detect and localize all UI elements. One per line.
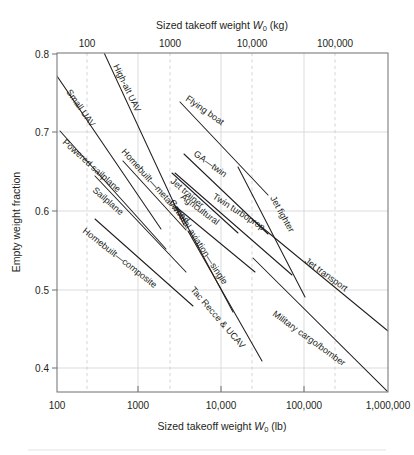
y-tick-label-0-4: 0.4 xyxy=(35,363,49,374)
x-tick-label-1000000: 1,000,000 xyxy=(366,400,411,411)
top-tick-label-10000: 10,000 xyxy=(237,38,268,49)
y-axis-title: Empty weight fraction xyxy=(10,172,22,273)
y-tick-label-0-5: 0.5 xyxy=(35,285,49,296)
empty-weight-fraction-chart: Sized takeoff weight W0 (kg) 100 1000 10… xyxy=(0,0,414,455)
y-tick-label-0-7: 0.7 xyxy=(35,127,49,138)
chart-svg: Sized takeoff weight W0 (kg) 100 1000 10… xyxy=(0,0,414,455)
x-tick-label-100000: 100,000 xyxy=(286,400,323,411)
top-tick-label-1000: 1000 xyxy=(159,38,182,49)
top-axis-title: Sized takeoff weight W0 (kg) xyxy=(156,19,288,33)
y-tick-label-0-8: 0.8 xyxy=(35,49,49,60)
y-tick-label-0-6: 0.6 xyxy=(35,206,49,217)
x-tick-label-100: 100 xyxy=(49,400,66,411)
x-tick-label-10000: 10,000 xyxy=(206,400,237,411)
top-tick-label-100: 100 xyxy=(79,38,96,49)
x-tick-label-1000: 1000 xyxy=(127,400,150,411)
top-tick-label-100000: 100,000 xyxy=(317,38,354,49)
chart-background xyxy=(0,0,414,455)
